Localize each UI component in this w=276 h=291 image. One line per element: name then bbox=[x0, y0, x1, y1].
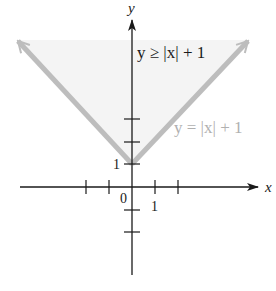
x-tick-label-1: 1 bbox=[151, 199, 158, 214]
x-axis-label: x bbox=[264, 179, 272, 195]
origin-label: 0 bbox=[120, 191, 127, 206]
y-tick-label-1: 1 bbox=[113, 157, 120, 172]
boundary-equation-label: y = |x| + 1 bbox=[174, 118, 242, 137]
shaded-solution-region bbox=[17, 40, 249, 164]
y-axis-label: y bbox=[126, 0, 135, 16]
inequality-label: y ≥ |x| + 1 bbox=[137, 43, 205, 62]
graph-canvas: y x y ≥ |x| + 1 y = |x| + 1 1 0 1 bbox=[0, 0, 276, 291]
